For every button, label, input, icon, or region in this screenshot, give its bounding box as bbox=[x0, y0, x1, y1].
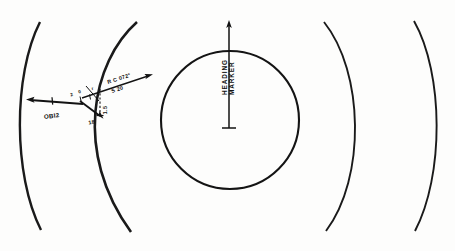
tick-label-c: r bbox=[91, 86, 94, 91]
own-ship-vector bbox=[30, 100, 83, 104]
apex-tick-1 bbox=[80, 97, 81, 102]
tick-label-a: 2 bbox=[70, 92, 74, 98]
diagram-canvas: HEADING MARKER OBI2 R C 072° bbox=[0, 0, 455, 251]
arc-left-outer bbox=[20, 22, 41, 230]
own-ship-label: OBI2 bbox=[43, 111, 60, 120]
own-ship-vector-tick bbox=[52, 97, 53, 104]
heading-marker: HEADING MARKER bbox=[221, 20, 236, 128]
plot-svg: HEADING MARKER OBI2 R C 072° bbox=[0, 0, 455, 251]
arc-left-inner bbox=[95, 22, 137, 232]
vector-triangle-plot: OBI2 R C 072° S 20 2 0 r 1.5 18 bbox=[26, 72, 153, 126]
arc-right-inner bbox=[324, 22, 355, 231]
arc-right-outer bbox=[414, 21, 437, 231]
speed-label: S 20 bbox=[110, 84, 124, 94]
tick-label-b: 0 bbox=[78, 89, 82, 95]
range-arc-group bbox=[20, 21, 437, 232]
vertical-dimension-label: 1.5 bbox=[102, 106, 108, 114]
heading-marker-label-line2: MARKER bbox=[228, 62, 235, 95]
heading-marker-label-line1: HEADING bbox=[221, 59, 228, 95]
lower-dimension-label: 18 bbox=[88, 119, 96, 126]
